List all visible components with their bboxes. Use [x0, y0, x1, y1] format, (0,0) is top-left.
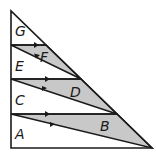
label-g: G	[15, 23, 26, 39]
label-c: C	[15, 92, 25, 108]
region-b	[11, 114, 152, 148]
label-e: E	[15, 58, 24, 74]
label-a: A	[14, 126, 25, 142]
label-f: F	[40, 49, 49, 65]
region-d	[11, 79, 117, 114]
triangle-diagram: G F E D C B A	[0, 0, 156, 158]
label-b: B	[100, 118, 110, 134]
label-d: D	[70, 84, 81, 100]
